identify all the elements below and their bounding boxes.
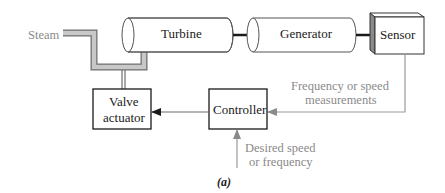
figure-caption: (a) (217, 175, 231, 189)
measurement-label-line2: measurements (305, 93, 377, 107)
speed-governor-diagram: Steam Turbine Generator Sensor Frequency… (0, 0, 445, 193)
valve-actuator-label-line2: actuator (103, 110, 146, 125)
sensor: Sensor (370, 13, 424, 54)
turbine: Turbine (122, 18, 233, 52)
valve-actuator: Valve actuator (93, 89, 151, 129)
valve-actuator-label-line1: Valve (109, 94, 139, 109)
setpoint-label-line1: Desired speed (245, 141, 316, 155)
measurement-label-line1: Frequency or speed (291, 79, 390, 93)
turbine-label: Turbine (161, 26, 202, 41)
generator: Generator (247, 18, 356, 52)
generator-label: Generator (280, 26, 333, 41)
controller-label: Controller (213, 102, 267, 117)
steam-label: Steam (28, 28, 60, 42)
sensor-label: Sensor (380, 27, 416, 42)
controller: Controller (209, 89, 267, 129)
setpoint-label-line2: or frequency (249, 155, 313, 169)
